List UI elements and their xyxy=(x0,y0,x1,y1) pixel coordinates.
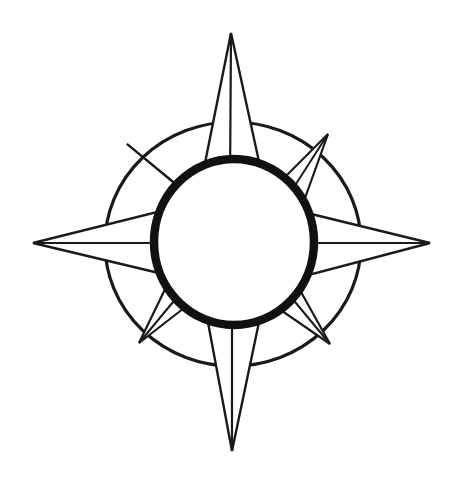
compass-rose-figure xyxy=(0,0,461,484)
illustration-canvas xyxy=(0,0,461,484)
inner-ring-hub xyxy=(154,159,314,325)
